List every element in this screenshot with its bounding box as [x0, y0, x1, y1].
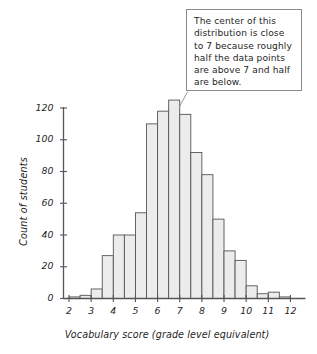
histogram-bar [124, 235, 135, 299]
histogram-bar [257, 294, 268, 299]
histogram-bar [213, 219, 224, 298]
x-axis-tick-label: 7 [172, 305, 188, 316]
histogram-bar [191, 152, 202, 298]
histogram-bar [268, 292, 279, 298]
y-axis-tick-label: 100 [28, 133, 54, 144]
y-axis-tick-label: 40 [28, 229, 54, 240]
histogram-bar [180, 114, 191, 298]
x-axis-tick-label: 2 [61, 305, 77, 316]
y-axis-title: Count of students [18, 137, 29, 267]
histogram-bar [169, 100, 180, 298]
x-axis-tick-label: 12 [282, 305, 298, 316]
x-axis-tick-label: 4 [105, 305, 121, 316]
histogram-bar [147, 124, 158, 299]
histogram-bar [224, 251, 235, 299]
histogram-bar [246, 286, 257, 299]
y-axis-tick-label: 60 [28, 197, 54, 208]
x-axis-tick-label: 8 [194, 305, 210, 316]
bars-group [69, 100, 290, 298]
center-callout-box: The center of this distribution is close… [186, 9, 302, 91]
y-axis-tick-label: 20 [28, 260, 54, 271]
y-axis-tick-label: 80 [28, 165, 54, 176]
histogram-bar [91, 289, 102, 299]
y-axis-tick-label: 0 [28, 292, 54, 303]
x-axis-tick-label: 9 [216, 305, 232, 316]
histogram-bar [235, 260, 246, 298]
histogram-bar [113, 235, 124, 299]
histogram-bar [135, 213, 146, 299]
x-axis-tick-label: 3 [83, 305, 99, 316]
center-callout-text: The center of this distribution is close… [194, 15, 295, 89]
x-axis-tick-label: 11 [260, 305, 276, 316]
x-axis-tick-label: 6 [150, 305, 166, 316]
callout-leader-line-segment [180, 92, 188, 106]
histogram-bar [102, 256, 113, 299]
x-axis-tick-label: 10 [238, 305, 254, 316]
histogram-bar [202, 175, 213, 299]
histogram-figure: 020406080100120 23456789101112 Count of … [0, 0, 317, 354]
x-axis-title: Vocabulary score (grade level equivalent… [36, 329, 298, 340]
histogram-bar [158, 111, 169, 298]
x-axis-tick-label: 5 [127, 305, 143, 316]
callout-leader-line [180, 92, 188, 106]
y-axis-tick-label: 120 [28, 102, 54, 113]
